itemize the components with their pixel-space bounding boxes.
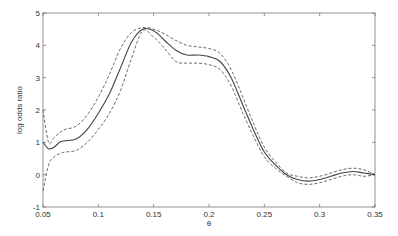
x-axis-ticks: 0.050.10.150.20.250.30.35 [35, 13, 383, 219]
x-tick-label: 0.2 [203, 210, 215, 219]
y-tick-label: 4 [36, 41, 41, 50]
x-tick-label: 0.25 [257, 210, 273, 219]
x-axis-label: θ [207, 219, 212, 228]
x-tick-label: 0.35 [367, 210, 383, 219]
confidence-band-line [43, 30, 375, 191]
line-chart: -1012345 0.050.10.150.20.250.30.35 log o… [0, 0, 398, 236]
y-tick-label: 1 [36, 138, 41, 147]
y-tick-label: 5 [36, 9, 41, 18]
y-tick-label: 2 [36, 106, 41, 115]
x-tick-label: 0.15 [146, 210, 162, 219]
confidence-band-line [43, 27, 375, 177]
y-tick-label: 0 [36, 171, 41, 180]
y-tick-label: 3 [36, 74, 41, 83]
estimate-line [43, 28, 375, 181]
x-tick-label: 0.3 [314, 210, 326, 219]
y-axis-label: log odds ratio [15, 85, 24, 134]
data-series [43, 27, 375, 190]
x-tick-label: 0.1 [93, 210, 105, 219]
y-axis-ticks: -1012345 [33, 9, 375, 212]
x-tick-label: 0.05 [35, 210, 51, 219]
